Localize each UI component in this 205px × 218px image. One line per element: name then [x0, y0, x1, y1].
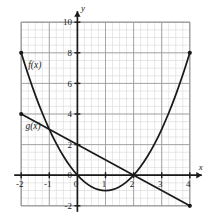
coordinate-plane-graph: -2-101234-20246810 f(x)g(x) xy: [0, 0, 205, 218]
x-tick-label: -2: [16, 179, 24, 189]
y-tick-label: 10: [63, 17, 73, 27]
y-tick-label: 4: [67, 109, 72, 119]
curve-endpoint-marker: [19, 51, 23, 55]
y-tick-label: -2: [64, 201, 72, 211]
curve-endpoint-marker: [188, 204, 192, 208]
y-tick-label: 2: [67, 140, 72, 150]
y-axis-name-label: y: [80, 3, 85, 13]
x-tick-label: 4: [186, 179, 191, 189]
y-tick-label: 0: [67, 170, 72, 180]
y-tick-label: 8: [67, 48, 72, 58]
x-axis-name-label: x: [198, 162, 203, 172]
graph-screenshot: -2-101234-20246810 f(x)g(x) xy: [0, 0, 205, 218]
x-tick-label: 2: [130, 179, 135, 189]
x-tick-label: 1: [102, 179, 107, 189]
curve-label-gx: g(x): [25, 121, 40, 132]
x-tick-label: 0: [74, 179, 79, 189]
curve-endpoint-marker: [188, 51, 192, 55]
x-tick-label: 3: [158, 179, 163, 189]
curve-endpoint-marker: [19, 112, 23, 116]
y-tick-label: 6: [67, 79, 72, 89]
curve-label-fx: f(x): [28, 60, 41, 71]
x-tick-label: -1: [44, 179, 52, 189]
